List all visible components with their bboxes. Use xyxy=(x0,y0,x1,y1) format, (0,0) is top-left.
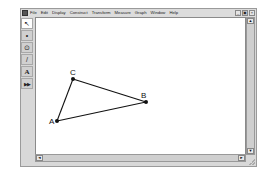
menu-bar: File Edit Display Construct Transform Me… xyxy=(21,9,256,17)
segment-CB[interactable] xyxy=(73,79,146,102)
scroll-left-button[interactable]: ◄ xyxy=(36,155,43,161)
restore-button[interactable]: ▣ xyxy=(242,10,248,16)
menu-graph[interactable]: Graph xyxy=(135,9,147,17)
menu-help[interactable]: Help xyxy=(169,9,178,17)
app-icon[interactable] xyxy=(22,10,28,16)
compass-tool[interactable]: ⊙ xyxy=(21,42,33,53)
point-label-B[interactable]: B xyxy=(141,91,146,100)
resize-grip[interactable] xyxy=(249,159,255,165)
arrow-icon: ↖ xyxy=(24,20,30,28)
point-label-A[interactable]: A xyxy=(49,117,55,126)
sketch-canvas[interactable]: ABC xyxy=(35,17,246,155)
scroll-up-button[interactable]: ▲ xyxy=(247,18,254,24)
circle-icon: ⊙ xyxy=(24,44,30,52)
scroll-down-button[interactable]: ▼ xyxy=(247,148,254,154)
text-tool[interactable]: A xyxy=(21,66,33,77)
point-B[interactable] xyxy=(144,100,148,104)
minimize-button[interactable]: _ xyxy=(235,10,241,16)
menu-file[interactable]: File xyxy=(30,9,37,17)
text-icon: A xyxy=(24,68,29,76)
point-C[interactable] xyxy=(71,77,75,81)
vertical-scrollbar[interactable]: ▲ ▼ xyxy=(246,17,255,155)
menu-construct[interactable]: Construct xyxy=(70,9,88,17)
point-A[interactable] xyxy=(55,119,59,123)
menu-window[interactable]: Window xyxy=(151,9,166,17)
straightedge-tool[interactable]: / xyxy=(21,54,33,65)
segment-AC[interactable] xyxy=(57,79,73,121)
window-controls: _ ▣ × xyxy=(235,10,255,16)
selection-arrow-tool[interactable]: ↖ xyxy=(21,18,33,29)
scroll-right-button[interactable]: ► xyxy=(238,155,245,161)
point-icon: • xyxy=(26,32,28,39)
close-button[interactable]: × xyxy=(249,10,255,16)
horizontal-scrollbar[interactable]: ◄ ► xyxy=(35,154,246,162)
segment-AB[interactable] xyxy=(57,102,146,121)
sketch-window: File Edit Display Construct Transform Me… xyxy=(20,8,257,167)
point-label-C[interactable]: C xyxy=(70,68,76,77)
menu-measure[interactable]: Measure xyxy=(115,9,131,17)
line-icon: / xyxy=(26,56,28,63)
menu-display[interactable]: Display xyxy=(52,9,66,17)
toolbox: ↖ • ⊙ / A ▶▶ xyxy=(21,18,34,90)
custom-tools-icon: ▶▶ xyxy=(24,81,30,87)
menu-edit[interactable]: Edit xyxy=(41,9,48,17)
custom-tool[interactable]: ▶▶ xyxy=(21,78,33,89)
triangle-sketch: ABC xyxy=(35,17,246,155)
menu-transform[interactable]: Transform xyxy=(92,9,111,17)
point-tool[interactable]: • xyxy=(21,30,33,41)
